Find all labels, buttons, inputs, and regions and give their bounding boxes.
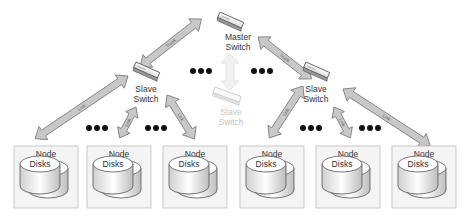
disks-label: Disks	[256, 159, 277, 169]
node-6: Node Disks	[392, 146, 456, 208]
slave-switch-faded-label-1: Slave	[220, 107, 242, 117]
node-3: Node Disks	[163, 146, 227, 208]
slave-switch-faded-label-2: Switch	[218, 117, 243, 127]
slave-switch-left-label-1: Slave	[135, 84, 157, 94]
cluster-topology-diagram: Trunk Trunk Link Link Link Link Link Lin…	[0, 0, 469, 222]
slave-switch-right-label-1: Slave	[305, 84, 327, 94]
disks-label: Disks	[179, 159, 200, 169]
master-switch-label-1: Master	[225, 32, 251, 42]
link-arrow-node6: Link	[339, 82, 435, 152]
disks-label: Disks	[103, 159, 124, 169]
standby-arrow	[221, 54, 239, 90]
disks-icon: Disks	[169, 156, 217, 198]
disks-icon: Disks	[93, 156, 141, 198]
disks-icon: Disks	[246, 156, 294, 198]
link-arrow-node1: Link	[31, 69, 133, 145]
node-5: Node Disks	[316, 146, 380, 208]
link-arrow-node4: Link	[263, 82, 310, 143]
link-arrow-node5: Link	[328, 104, 357, 141]
slave-switch-left-label-2: Switch	[133, 94, 158, 104]
master-switch-label-2: Switch	[225, 42, 250, 52]
link-arrow-node3: Link	[160, 91, 201, 144]
disks-icon: Disks	[20, 156, 68, 198]
link-arrow-node2: Link	[113, 104, 142, 141]
slave-switch-faded-icon	[212, 87, 242, 105]
master-switch-icon	[216, 12, 244, 31]
disks-icon: Disks	[398, 156, 446, 198]
disks-label: Disks	[30, 159, 51, 169]
node-4: Node Disks	[240, 146, 304, 208]
slave-switch-right-label-2: Switch	[303, 94, 328, 104]
disks-label: Disks	[408, 159, 429, 169]
node-1: Node Disks	[14, 146, 78, 208]
trunk-arrow-left: Trunk	[135, 13, 206, 74]
node-2: Node Disks	[87, 146, 151, 208]
trunk-arrow-right: Trunk	[253, 31, 316, 85]
disks-label: Disks	[332, 159, 353, 169]
disks-icon: Disks	[322, 156, 370, 198]
